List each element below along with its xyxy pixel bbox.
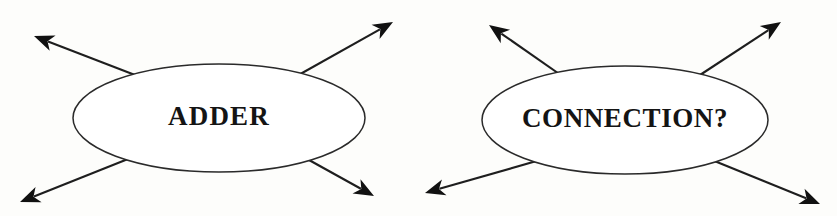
diagram-svg: ADDERCONNECTION? <box>0 0 837 216</box>
connection-arrow-top-right <box>700 22 781 75</box>
connection-arrow-bottom-right <box>712 160 820 204</box>
diagram-canvas: ADDERCONNECTION? <box>0 0 837 216</box>
connection-arrow-bottom-left-shaft <box>439 160 540 189</box>
connection-arrow-top-right-shaft <box>700 30 768 75</box>
node-adder: ADDER <box>73 64 365 172</box>
adder-arrow-top-left <box>34 36 148 80</box>
adder-arrow-top-right-shaft <box>295 29 380 77</box>
connection-arrow-top-left-head <box>489 25 510 43</box>
adder-arrow-top-right-head <box>372 22 393 39</box>
connection-arrow-top-left <box>489 25 565 78</box>
node-adder-label: ADDER <box>168 101 270 131</box>
connection-arrow-bottom-right-shaft <box>712 160 806 198</box>
adder-arrow-bottom-left-shaft <box>34 157 133 196</box>
connection-arrow-top-left-shaft <box>501 34 565 78</box>
connection-arrow-top-right-head <box>760 22 781 40</box>
connection-arrow-bottom-left <box>425 160 540 195</box>
adder-arrow-bottom-left <box>20 157 133 202</box>
adder-arrow-bottom-right-head <box>353 179 374 196</box>
adder-arrow-bottom-right <box>300 155 374 196</box>
node-connection-label: CONNECTION? <box>522 103 728 133</box>
adder-arrow-top-right <box>295 22 393 77</box>
node-connection: CONNECTION? <box>482 66 768 174</box>
